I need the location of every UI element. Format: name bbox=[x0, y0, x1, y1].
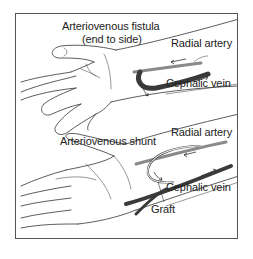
top-arrow-artery bbox=[171, 59, 186, 64]
top-radial-artery-label: Radial artery bbox=[171, 37, 232, 49]
graft-label: Graft bbox=[151, 203, 175, 215]
bottom-arrow-graft bbox=[154, 172, 162, 180]
top-title-line1: Arteriovenous fistula bbox=[62, 20, 160, 32]
bottom-cephalic-vein-label: Cephalic vein bbox=[166, 181, 231, 193]
top-radial-artery bbox=[134, 63, 201, 72]
top-cephalic-vein-label: Cephalic vein bbox=[166, 77, 231, 89]
bottom-arrow-artery bbox=[184, 152, 196, 157]
graft-loop bbox=[148, 146, 201, 182]
bottom-radial-artery-label: Radial artery bbox=[171, 126, 232, 138]
bottom-title: Arteriovenous shunt bbox=[60, 135, 156, 147]
top-title-line2: (end to side) bbox=[82, 33, 142, 45]
diagram-frame: Arteriovenous fistula (end to side) Radi… bbox=[15, 13, 238, 239]
